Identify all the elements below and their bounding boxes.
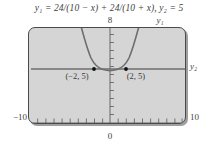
x-axis-min-label: −10 xyxy=(1,112,27,122)
graph-figure: y₁ = 24/(10 − x) + 24/(10 + x), y₂ = 5 xyxy=(0,0,218,152)
point-label-right: (2, 5) xyxy=(116,71,156,81)
origin-label: 0 xyxy=(96,131,124,141)
curve-label-y1: y₁ xyxy=(146,15,174,25)
plot-canvas xyxy=(29,28,186,124)
x-axis-max-label: 10 xyxy=(190,112,216,122)
y-axis-ticks xyxy=(110,35,114,115)
line-label-y2: y₂ xyxy=(190,61,214,71)
y-axis-max-label: 8 xyxy=(95,15,125,25)
plot-area xyxy=(28,27,186,124)
point-label-left: (−2, 5) xyxy=(54,71,100,81)
figure-title: y₁ = 24/(10 − x) + 24/(10 + x), y₂ = 5 xyxy=(0,3,218,13)
